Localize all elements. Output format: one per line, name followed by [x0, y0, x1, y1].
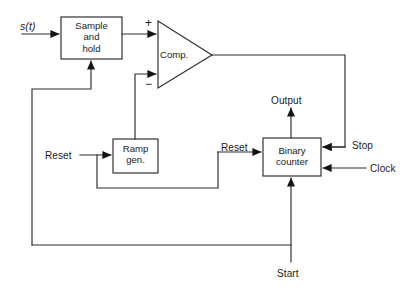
signal-label-reset-ramp: Reset [45, 150, 72, 162]
block-label-sample-and-hold: Sample and hold [61, 20, 122, 54]
block-label-ramp-gen: Ramp gen. [113, 143, 158, 166]
block-label-binary-counter: Binary counter [263, 145, 321, 168]
signal-label-clock: Clock [370, 163, 396, 175]
signal-label-start: Start [277, 268, 299, 280]
block-diagram: Sample and hold Comp. Ramp gen. Binary c… [0, 0, 414, 297]
signal-label-input: s(t) [20, 21, 36, 33]
block-label-comparator: Comp. [160, 49, 202, 60]
signal-label-stop: Stop [352, 140, 373, 152]
comparator-minus-sign: − [145, 79, 152, 89]
signal-label-reset-counter: Reset [221, 142, 248, 154]
signal-label-output: Output [271, 95, 302, 107]
comparator-plus-sign: + [145, 18, 152, 28]
